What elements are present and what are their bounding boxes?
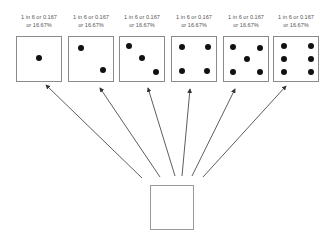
pip xyxy=(281,56,287,62)
pip xyxy=(308,69,314,75)
arrow-to-face-6 xyxy=(203,86,286,177)
pip xyxy=(205,44,211,50)
label-line-1: 1 in 6 or 0.167 xyxy=(218,14,274,22)
pip xyxy=(230,44,236,50)
arrow-to-face-3 xyxy=(148,88,175,176)
pip xyxy=(308,56,314,62)
pip xyxy=(204,68,210,74)
pip xyxy=(257,45,263,51)
pip xyxy=(36,55,42,61)
label-line-1: 1 in 6 or 0.167 xyxy=(63,14,119,22)
pip xyxy=(281,69,287,75)
label-line-1: 1 in 6 or 0.167 xyxy=(11,14,67,22)
pip xyxy=(257,69,263,75)
probability-label-4: 1 in 6 or 0.167 or 16.67% xyxy=(166,14,222,29)
unrolled-die-box xyxy=(150,185,194,230)
pip xyxy=(244,56,250,62)
probability-label-1: 1 in 6 or 0.167 or 16.67% xyxy=(11,14,67,29)
pip xyxy=(179,44,185,50)
probability-label-6: 1 in 6 or 0.167 or 16.67% xyxy=(268,14,324,29)
label-line-2: or 16.67% xyxy=(63,22,119,30)
pip xyxy=(153,69,159,75)
pip xyxy=(100,67,106,73)
probability-label-5: 1 in 6 or 0.167 or 16.67% xyxy=(218,14,274,29)
arrow-to-face-1 xyxy=(46,85,142,178)
pip xyxy=(230,69,236,75)
die-face-5 xyxy=(223,36,269,82)
die-face-6 xyxy=(273,36,319,82)
label-line-1: 1 in 6 or 0.167 xyxy=(268,14,324,22)
pip xyxy=(78,45,84,51)
die-face-3 xyxy=(119,36,165,82)
pip xyxy=(308,43,314,49)
pip xyxy=(126,43,132,49)
label-line-2: or 16.67% xyxy=(114,22,170,30)
probability-label-3: 1 in 6 or 0.167 or 16.67% xyxy=(114,14,170,29)
die-face-2 xyxy=(68,36,114,82)
label-line-2: or 16.67% xyxy=(268,22,324,30)
die-face-1 xyxy=(16,36,62,82)
label-line-2: or 16.67% xyxy=(11,22,67,30)
arrow-to-face-2 xyxy=(100,88,160,177)
label-line-2: or 16.67% xyxy=(166,22,222,30)
label-line-1: 1 in 6 or 0.167 xyxy=(114,14,170,22)
pip xyxy=(281,43,287,49)
pip xyxy=(139,55,145,61)
arrow-to-face-4 xyxy=(182,89,190,176)
die-face-4 xyxy=(171,36,217,82)
label-line-2: or 16.67% xyxy=(218,22,274,30)
arrow-to-face-5 xyxy=(192,89,235,176)
probability-label-2: 1 in 6 or 0.167 or 16.67% xyxy=(63,14,119,29)
label-line-1: 1 in 6 or 0.167 xyxy=(166,14,222,22)
pip xyxy=(179,68,185,74)
